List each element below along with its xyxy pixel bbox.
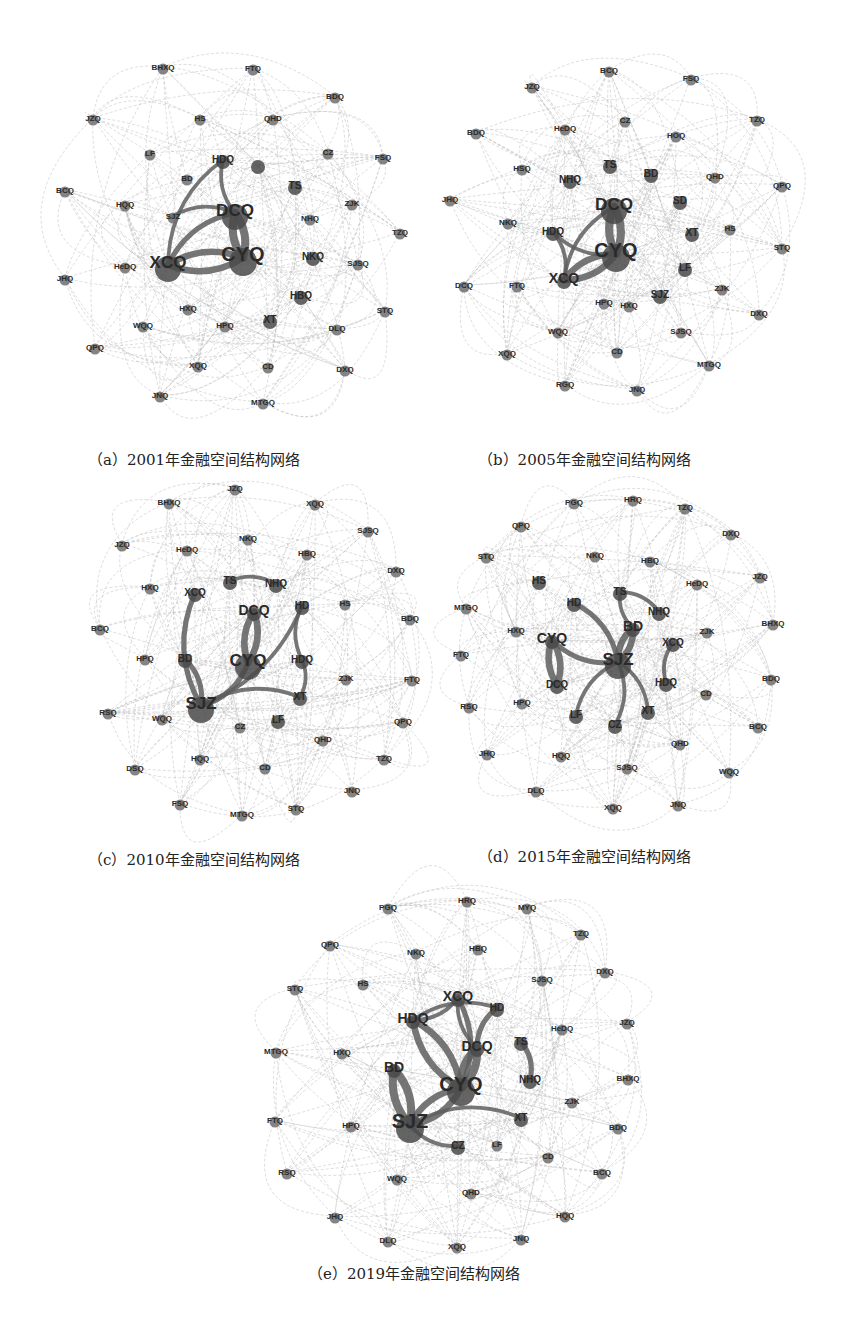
edge (388, 885, 581, 933)
node-label: NHQ (301, 214, 319, 223)
node-label: RSQ (99, 708, 116, 717)
edge (258, 165, 313, 257)
node-label: CYQ (439, 1073, 482, 1095)
node-label: CZ (323, 148, 334, 157)
node-label: JZQ (85, 114, 101, 123)
edge (681, 288, 722, 331)
edge (300, 618, 410, 697)
node-label: NHQ (519, 1074, 541, 1085)
node-RSQ: RSQ (99, 708, 116, 720)
node-label: BDQ (467, 128, 485, 137)
node-label: HRQ (458, 896, 476, 905)
node-TZQ: TZQ (573, 929, 589, 941)
node-label: BCQ (749, 722, 767, 731)
edge (302, 603, 410, 618)
node-BDQ: BDQ (467, 128, 485, 140)
edge (265, 1120, 335, 1216)
node-SD: SD (673, 195, 687, 210)
node-label: HBQ (298, 549, 316, 558)
node-DXQ: DXQ (387, 566, 404, 578)
node-label: HPQ (216, 321, 233, 330)
node-label: SJSQ (347, 259, 368, 268)
node-label: TS (604, 159, 617, 170)
edge (273, 1051, 335, 1216)
node-HBQ: HBQ (290, 290, 312, 305)
node-WQQ: WQQ (548, 327, 568, 339)
edge (258, 165, 352, 203)
edge (691, 78, 782, 185)
edge (517, 525, 536, 790)
edge (637, 364, 709, 409)
node-circle (251, 160, 265, 174)
node-label: XT (264, 314, 277, 325)
node-label: MYQ (518, 903, 536, 912)
node-ZJK: ZJK (338, 674, 353, 686)
node-label: DCQ (216, 201, 254, 220)
edge (458, 556, 486, 607)
edge (440, 654, 469, 706)
node-label: BCQ (593, 1168, 611, 1177)
edge (95, 310, 385, 358)
node-label: HDQ (212, 154, 234, 165)
node-label: MTGQ (264, 1047, 288, 1056)
node-ZJK: ZJK (699, 627, 714, 639)
node-label: BD (623, 618, 643, 634)
node-XQQ: XQQ (448, 1242, 466, 1254)
node-label: NKQ (239, 534, 257, 543)
edge (273, 118, 400, 232)
node-TZQ: TZQ (677, 503, 693, 515)
node-label: NKQ (586, 551, 604, 560)
node-HS: HS (724, 224, 736, 236)
node-label: SJZ (392, 1110, 429, 1132)
node-HD: HD (295, 600, 309, 615)
node-label: TS (515, 1036, 528, 1047)
edge (539, 570, 760, 581)
edge (265, 767, 296, 822)
node-label: QPQ (86, 343, 104, 352)
node-label: BHXQ (616, 1074, 639, 1083)
node-BCQ: BCQ (749, 722, 767, 734)
node-label: HeDQ (686, 579, 708, 588)
node-label: QPQ (512, 521, 530, 530)
node-label: SJZ (602, 650, 633, 669)
node-label: QHD (462, 1188, 480, 1197)
edge (180, 726, 240, 803)
node-label: FTQ (453, 650, 469, 659)
node-XCQ: XCQ (184, 587, 206, 602)
node-label: FTQ (245, 64, 261, 73)
node-label: DCQ (595, 195, 633, 214)
node-label: HQQ (191, 754, 209, 763)
node-RSQ: RSQ (460, 702, 477, 714)
node-WQQ: WQQ (719, 767, 739, 779)
edge (328, 152, 387, 310)
node-label: ZJK (564, 1097, 579, 1106)
edge (334, 1178, 397, 1218)
edge (168, 265, 345, 369)
node-label: XT (515, 1112, 528, 1123)
node-QPQ: QPQ (86, 343, 104, 355)
edge (691, 78, 717, 176)
edge (124, 587, 150, 658)
node-XT: XT (263, 314, 277, 329)
node-JNQ: JNQ (344, 786, 360, 798)
node-CZ: CZ (323, 148, 334, 160)
node-JNQ: JNQ (152, 391, 168, 403)
node-XQQ: XQQ (189, 361, 207, 373)
node-label: XCQ (184, 587, 206, 598)
edge (561, 576, 760, 755)
node-ZJK: ZJK (344, 199, 359, 211)
node-label: TS (614, 586, 627, 597)
edge (302, 570, 396, 660)
node-label: HBQ (469, 944, 487, 953)
node-MTGQ: MTGQ (454, 603, 478, 615)
node-QHD: QHD (706, 172, 724, 184)
node-label: WQQ (387, 1174, 407, 1183)
node-QHD: QHD (264, 114, 282, 126)
node-TZQ: TZQ (376, 754, 392, 766)
node-HeDQ: HeDQ (554, 124, 576, 136)
node-SJSQ: SJSQ (670, 327, 691, 339)
node-label: JHQ (327, 1212, 343, 1221)
node-BDQ: BDQ (609, 1123, 627, 1135)
node-BCQ: BCQ (593, 1168, 611, 1180)
node-label: DXQ (750, 309, 767, 318)
